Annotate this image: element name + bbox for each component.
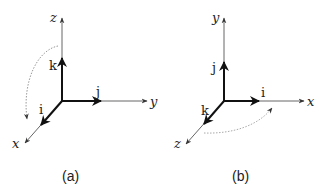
caption-a: (a) bbox=[62, 168, 79, 184]
axis-label-right: x bbox=[307, 94, 315, 109]
figure-b: y x z j i k (b) bbox=[173, 10, 315, 184]
vector-label-up: k bbox=[49, 58, 57, 73]
axis-label-up: z bbox=[49, 10, 57, 25]
vector-label-right: j bbox=[94, 84, 100, 99]
axis-label-diag: z bbox=[173, 136, 181, 151]
vector-label-diag: k bbox=[201, 103, 209, 118]
diagram-canvas: z y x k j i (a) y x z j i k (b) bbox=[0, 0, 331, 190]
axis-label-right: y bbox=[149, 94, 158, 109]
caption-b: (b) bbox=[232, 168, 249, 184]
axis-label-up: y bbox=[211, 10, 220, 25]
vector-label-up: j bbox=[210, 60, 216, 75]
figure-a: z y x k j i (a) bbox=[12, 10, 158, 184]
vector-label-diag: i bbox=[39, 102, 43, 117]
i-vector bbox=[41, 101, 62, 125]
vector-label-right: i bbox=[261, 85, 265, 100]
axis-label-diag: x bbox=[12, 136, 20, 151]
